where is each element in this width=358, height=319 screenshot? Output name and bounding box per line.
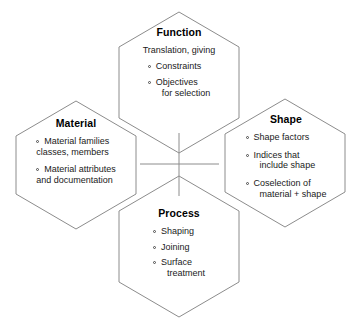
bullet-circle-icon bbox=[246, 154, 249, 157]
list-item: Shaping bbox=[153, 226, 205, 237]
bullet-circle-icon bbox=[36, 140, 39, 143]
bullet-circle-icon bbox=[153, 230, 156, 233]
hexagon-title-function: Function bbox=[108, 27, 250, 39]
hexagon-function: Function Translation, giving Constraints… bbox=[108, 27, 250, 100]
hexagon-material: Material Material families classes, memb… bbox=[18, 118, 134, 193]
list-item: Shape factors bbox=[246, 132, 327, 143]
list-item: Objectives for selection bbox=[148, 77, 211, 99]
list-item-line: Shape factors bbox=[254, 132, 327, 143]
list-item-line: include shape bbox=[254, 160, 327, 171]
list-item-line: Shaping bbox=[161, 226, 205, 237]
hexagon-lead-function: Translation, giving bbox=[108, 45, 250, 56]
hexagon-shape: Shape Shape factors Indices that include… bbox=[228, 114, 344, 207]
list-item-line: Surface bbox=[161, 257, 205, 268]
hexagon-title-material: Material bbox=[18, 118, 134, 130]
list-item-line: Material attributes bbox=[44, 164, 116, 175]
list-item-line: material + shape bbox=[254, 189, 327, 200]
list-item-line: and documentation bbox=[36, 175, 116, 186]
bullet-circle-icon bbox=[153, 246, 156, 249]
hexagon-list-shape: Shape factors Indices that include shape… bbox=[246, 132, 327, 208]
bullet-circle-icon bbox=[148, 81, 151, 84]
hexagon-title-process: Process bbox=[113, 208, 245, 220]
hexagon-title-shape: Shape bbox=[228, 114, 344, 126]
list-item: Material attributes and documentation bbox=[36, 164, 116, 186]
bullet-circle-icon bbox=[36, 168, 39, 171]
bullet-circle-icon bbox=[148, 65, 151, 68]
bullet-circle-icon bbox=[246, 136, 249, 139]
list-item-line: Material families bbox=[44, 136, 116, 147]
list-item: Surface treatment bbox=[153, 257, 205, 279]
list-item: Joining bbox=[153, 242, 205, 253]
list-item: Indices that include shape bbox=[246, 150, 327, 172]
list-item-line: Objectives bbox=[156, 77, 211, 88]
list-item-line: treatment bbox=[161, 268, 205, 279]
list-item-line: Constraints bbox=[156, 61, 211, 72]
list-item: Coselection of material + shape bbox=[246, 178, 327, 200]
list-item-line: for selection bbox=[156, 88, 211, 99]
hexagon-list-material: Material families classes, members Mater… bbox=[36, 136, 116, 194]
bullet-circle-icon bbox=[246, 182, 249, 185]
list-item: Material families classes, members bbox=[36, 136, 116, 158]
list-item-line: Coselection of bbox=[254, 178, 327, 189]
hexagon-list-process: Shaping Joining Surface treatment bbox=[153, 226, 205, 280]
hexagon-list-function: Constraints Objectives for selection bbox=[148, 61, 211, 99]
bullet-circle-icon bbox=[153, 261, 156, 264]
hexagon-diagram: Function Translation, giving Constraints… bbox=[0, 0, 358, 319]
list-item-line: Indices that bbox=[254, 150, 327, 161]
list-item-line: classes, members bbox=[36, 147, 116, 158]
list-item-line: Joining bbox=[161, 242, 205, 253]
hexagon-process: Process Shaping Joining Surface treatmen… bbox=[113, 208, 245, 280]
list-item: Constraints bbox=[148, 61, 211, 72]
